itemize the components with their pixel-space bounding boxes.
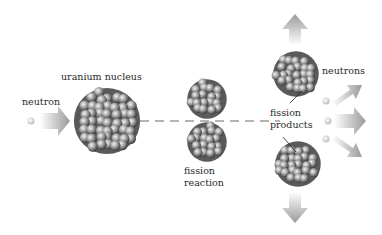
uranium-nucleus-icon [74,87,140,154]
incoming-neutron-icon [28,106,71,136]
outgoing-neutrons-icon [323,85,367,157]
fission-products-label-line2: products [270,119,313,130]
fission-reaction-label-line2: reaction [184,177,224,188]
fission-product-top-icon [272,51,319,97]
arrow-down-icon [282,192,308,223]
uranium-nucleus-label: uranium nucleus [61,71,142,82]
fission-diagram [0,0,382,235]
neutrons-label: neutrons [322,65,365,76]
fission-products-label-line1: fission [270,107,301,118]
neutron-label: neutron [22,96,60,107]
fission-product-bottom-icon [275,141,321,187]
fission-reaction-label-line1: fission [184,165,215,176]
arrow-up-icon [282,14,308,45]
